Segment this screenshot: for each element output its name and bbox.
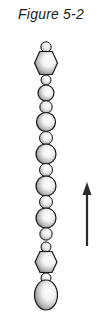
upward-arrow-graphic — [0, 0, 108, 317]
arrow-head — [83, 182, 92, 195]
arrow-group — [83, 182, 92, 246]
arrow-shaft — [86, 193, 88, 246]
figure-page: Figure 5-2 — [0, 0, 108, 317]
